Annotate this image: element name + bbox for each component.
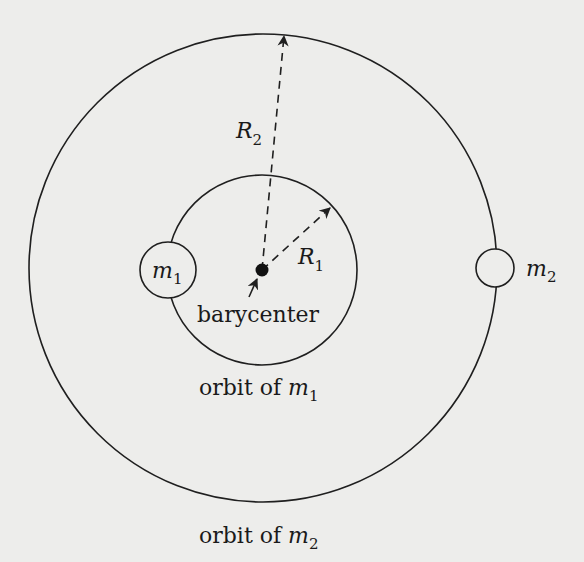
label-orbit-m2: orbit of m2: [199, 523, 319, 553]
label-orbit-m1: orbit of m1: [199, 375, 319, 405]
barycenter-dot: [256, 264, 269, 277]
radius-r2-arrow: [262, 36, 284, 270]
label-m2: m2: [526, 256, 556, 286]
label-barycenter: barycenter: [197, 302, 320, 327]
mass-m2-circle: [476, 249, 514, 287]
label-r1: R1: [297, 244, 324, 275]
barycenter-diagram: m1 m2 R2 R1 barycenter orbit of m1 orbit…: [0, 0, 584, 562]
barycenter-pointer-arrow: [249, 279, 257, 297]
label-r2: R2: [235, 118, 262, 149]
